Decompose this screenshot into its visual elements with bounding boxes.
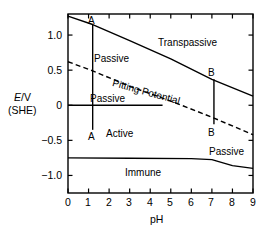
x-tick-label-5: 5	[160, 197, 180, 208]
y-axis-title-symbol: E	[14, 91, 21, 103]
x-tick-label-1: 1	[78, 197, 98, 208]
x-tick-label-3: 3	[119, 197, 139, 208]
y-tick-label-4: −0.5	[30, 135, 62, 146]
x-tick-label-8: 8	[222, 197, 242, 208]
x-tick-label-9: 9	[243, 197, 263, 208]
y-tick-label-3: 0	[34, 100, 62, 111]
x-tick-label-0: 0	[58, 197, 78, 208]
y-axis-title-line2: (SHE)	[8, 105, 37, 116]
region-label-transpassive: Transpassive	[158, 38, 217, 48]
marker-label-b-bottom: B	[208, 128, 215, 138]
y-axis-title-unit: /V	[21, 91, 31, 103]
y-tick-label-5: −1.0	[30, 170, 62, 181]
pourbaix-diagram-figure: 1.0 0.5 0 −0.5 −1.0 E/V (SHE) 0 1 2 3 4 …	[0, 0, 271, 237]
marker-label-a-bottom: A	[88, 132, 95, 142]
y-tick-label-1: 1.0	[34, 30, 62, 41]
x-tick-label-6: 6	[181, 197, 201, 208]
marker-label-a-top: A	[88, 16, 95, 26]
region-label-active: Active	[106, 129, 133, 139]
marker-label-b-top: B	[208, 68, 215, 78]
x-axis-title: pH	[150, 214, 163, 225]
x-tick-label-4: 4	[140, 197, 160, 208]
y-axis-title-line1: E/V	[14, 92, 31, 103]
region-label-passive-upper: Passive	[94, 54, 129, 64]
region-label-immune: Immune	[125, 168, 161, 178]
region-label-passive-lower: Passive	[209, 147, 244, 157]
region-label-passive-mid: Passive	[90, 94, 125, 104]
y-tick-label-2: 0.5	[34, 65, 62, 76]
x-tick-label-2: 2	[99, 197, 119, 208]
x-tick-label-7: 7	[201, 197, 221, 208]
